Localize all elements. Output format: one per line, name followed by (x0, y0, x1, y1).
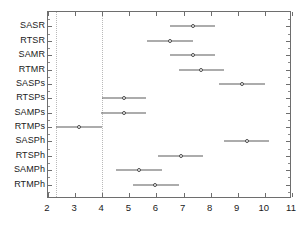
plot-area (47, 11, 291, 198)
x-tick-3 (75, 12, 76, 16)
y-minor-tick (48, 134, 50, 135)
x-tick-7 (184, 193, 185, 197)
y-minor-tick (288, 177, 290, 178)
y-tick-SAMPh (286, 170, 290, 171)
x-tick-2 (48, 193, 49, 197)
point-marker-SASPh (245, 139, 249, 143)
y-tick-RTMR (48, 70, 52, 71)
y-axis-label-RTMR: RTMR (19, 64, 45, 74)
y-minor-tick (48, 34, 50, 35)
y-tick-SASPh (286, 141, 290, 142)
y-tick-SASPs (48, 84, 52, 85)
y-tick-SAMPs (48, 113, 52, 114)
y-minor-tick (288, 149, 290, 150)
x-tick-4 (102, 193, 103, 197)
y-axis-label-RTMPh: RTMPh (14, 179, 45, 189)
y-tick-RTSPh (286, 156, 290, 157)
x-tick-8 (211, 193, 212, 197)
point-marker-RTSPh (179, 154, 183, 158)
x-tick-5 (129, 193, 130, 197)
y-minor-tick (288, 62, 290, 63)
y-tick-SASPh (48, 141, 52, 142)
y-minor-tick (48, 120, 50, 121)
y-minor-tick (48, 149, 50, 150)
point-marker-SAMPs (122, 111, 126, 115)
y-axis-label-RTSPs: RTSPs (16, 92, 45, 102)
y-axis-label-RTSR: RTSR (20, 35, 45, 45)
x-tick-2 (48, 12, 49, 16)
x-tick-6 (156, 12, 157, 16)
y-minor-tick (288, 91, 290, 92)
y-minor-tick (288, 120, 290, 121)
y-tick-SAMPs (286, 113, 290, 114)
point-marker-RTSR (168, 39, 172, 43)
y-tick-RTMR (286, 70, 290, 71)
point-marker-SASPs (240, 82, 244, 86)
point-marker-SAMR (191, 53, 195, 57)
y-tick-RTMPs (286, 127, 290, 128)
point-marker-RTMPs (77, 125, 81, 129)
y-tick-SASR (48, 26, 52, 27)
y-tick-SAMPh (48, 170, 52, 171)
y-axis-label-SASPs: SASPs (16, 78, 45, 88)
y-minor-tick (48, 91, 50, 92)
x-tick-label-8: 8 (207, 202, 212, 213)
x-tick-label-11: 11 (286, 202, 296, 213)
y-axis-label-SASPh: SASPh (15, 135, 45, 145)
x-tick-9 (238, 193, 239, 197)
x-tick-label-10: 10 (259, 202, 270, 213)
y-minor-tick (48, 19, 50, 20)
point-marker-RTMPh (153, 183, 157, 187)
y-minor-tick (288, 77, 290, 78)
x-tick-10 (265, 193, 266, 197)
x-tick-label-3: 3 (71, 202, 76, 213)
y-minor-tick (48, 106, 50, 107)
y-tick-SASPs (286, 84, 290, 85)
y-minor-tick (48, 163, 50, 164)
y-axis-label-SAMPh: SAMPh (14, 164, 45, 174)
y-tick-RTMPh (286, 185, 290, 186)
x-tick-label-4: 4 (99, 202, 104, 213)
y-minor-tick (288, 163, 290, 164)
x-tick-8 (211, 12, 212, 16)
y-minor-tick (288, 106, 290, 107)
x-tick-label-7: 7 (180, 202, 185, 213)
y-tick-SAMR (286, 55, 290, 56)
y-minor-tick (48, 77, 50, 78)
y-tick-RTMPh (48, 185, 52, 186)
y-tick-RTMPs (48, 127, 52, 128)
forest-plot-figure: SASRRTSRSAMRRTMRSASPsRTSPsSAMPsRTMPsSASP… (0, 0, 307, 235)
y-tick-RTSR (286, 41, 290, 42)
x-tick-11 (292, 193, 293, 197)
y-minor-tick (48, 48, 50, 49)
y-tick-RTSPh (48, 156, 52, 157)
y-minor-tick (288, 192, 290, 193)
point-marker-SAMPh (137, 168, 141, 172)
y-minor-tick (288, 134, 290, 135)
point-marker-SASR (191, 24, 195, 28)
y-minor-tick (288, 19, 290, 20)
x-tick-6 (156, 193, 157, 197)
y-axis-label-RTMPs: RTMPs (15, 121, 45, 131)
x-tick-label-5: 5 (126, 202, 131, 213)
x-tick-7 (184, 12, 185, 16)
x-tick-11 (292, 12, 293, 16)
y-axis-label-RTSPh: RTSPh (16, 150, 45, 160)
y-minor-tick (288, 48, 290, 49)
y-tick-RTSR (48, 41, 52, 42)
x-tick-9 (238, 12, 239, 16)
x-tick-5 (129, 12, 130, 16)
y-axis-label-SASR: SASR (20, 20, 45, 30)
x-tick-10 (265, 12, 266, 16)
y-axis-label-SAMPs: SAMPs (14, 107, 45, 117)
x-tick-4 (102, 12, 103, 16)
y-minor-tick (48, 177, 50, 178)
point-marker-RTSPs (122, 96, 126, 100)
y-tick-SASR (286, 26, 290, 27)
x-tick-3 (75, 193, 76, 197)
gridline-x-4 (102, 12, 103, 197)
y-tick-SAMR (48, 55, 52, 56)
y-tick-RTSPs (286, 98, 290, 99)
x-tick-label-6: 6 (153, 202, 158, 213)
point-marker-RTMR (199, 68, 203, 72)
